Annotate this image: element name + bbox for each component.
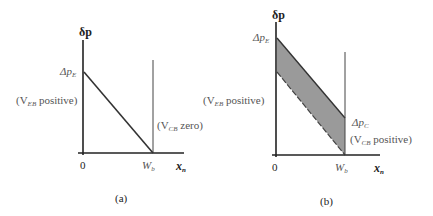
panel-b-wb-label: Wb	[335, 162, 348, 175]
panel-b-shaded-band	[277, 38, 345, 155]
vcb-pre: (V	[157, 119, 169, 131]
panel-b-delta-pc-label: ΔpC	[352, 117, 369, 130]
panel-a-delta-pe-label: ΔpE	[60, 66, 76, 79]
vcb-pre: (V	[350, 133, 362, 145]
wb-sub: b	[344, 167, 348, 175]
wb-text: W	[335, 161, 344, 173]
delta-pe-text: Δp	[60, 65, 72, 77]
panel-b-delta-pe-label: ΔpE	[253, 32, 269, 45]
panel-b-veb-note: (VEB positive)	[203, 95, 264, 108]
panel-a-y-axis-label: δp	[79, 26, 92, 38]
wb-text: W	[142, 159, 151, 171]
diagram-canvas	[0, 0, 433, 216]
panel-b-y-axis-text: δp	[272, 8, 285, 22]
panel-a-veb-note: (VEB positive)	[16, 95, 77, 108]
vcb-post: positive)	[371, 133, 412, 145]
veb-post: positive)	[223, 94, 264, 106]
panel-a-profile-line	[84, 72, 153, 153]
delta-pc-sub: C	[364, 122, 369, 130]
vcb-sub: CB	[362, 139, 371, 147]
panel-a-vcb-note: (VCB zero)	[157, 120, 203, 133]
panel-a-origin-label: 0	[80, 160, 86, 171]
panel-b-y-axis-label: δp	[272, 9, 285, 21]
delta-pe-sub: E	[265, 37, 269, 45]
veb-post: positive)	[36, 94, 77, 106]
panel-b-vcb-note: (VCB positive)	[350, 134, 412, 147]
panel-a-graph	[78, 40, 184, 155]
veb-pre: (V	[16, 94, 28, 106]
delta-pe-sub: E	[72, 71, 76, 79]
delta-pe-text: Δp	[253, 31, 265, 43]
panel-b-x-axis-label: xn	[374, 162, 384, 176]
vcb-sub: CB	[169, 125, 178, 133]
panel-a-wb-label: Wb	[142, 160, 155, 173]
panel-a-caption: (a)	[115, 193, 127, 204]
vcb-post: zero)	[178, 119, 203, 131]
delta-pc-text: Δp	[352, 116, 364, 128]
panel-b-origin-label: 0	[272, 162, 278, 173]
x-axis-sub: n	[182, 166, 186, 174]
veb-sub: EB	[215, 100, 224, 108]
x-axis-sub: n	[380, 168, 384, 176]
veb-pre: (V	[203, 94, 215, 106]
wb-sub: b	[151, 165, 155, 173]
panel-b-caption: (b)	[320, 196, 333, 207]
panel-a-y-axis-text: δp	[79, 25, 92, 39]
veb-sub: EB	[28, 100, 37, 108]
panel-a-x-axis-label: xn	[176, 160, 186, 174]
